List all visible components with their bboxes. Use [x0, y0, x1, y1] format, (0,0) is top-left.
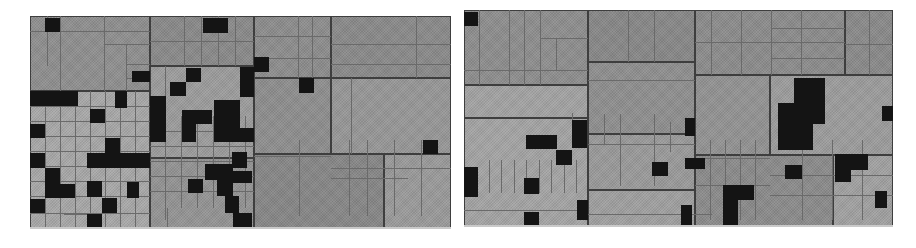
cell-divider: [421, 140, 422, 216]
cell-divider: [416, 16, 417, 78]
highlighted-cell[interactable]: [105, 138, 120, 153]
cell-divider: [464, 210, 588, 211]
highlighted-cell[interactable]: [785, 165, 802, 179]
highlighted-cell[interactable]: [835, 154, 868, 170]
highlighted-cell[interactable]: [882, 106, 893, 121]
highlighted-cell[interactable]: [524, 212, 539, 227]
cell-divider: [367, 140, 368, 216]
highlighted-cell[interactable]: [299, 78, 314, 93]
cell-divider: [628, 10, 629, 62]
highlighted-cell[interactable]: [30, 199, 45, 213]
cell-divider: [862, 140, 863, 220]
cell-divider: [588, 214, 712, 215]
highlighted-cell[interactable]: [127, 182, 139, 198]
cell-divider: [620, 114, 621, 186]
highlighted-cell[interactable]: [182, 124, 196, 142]
highlighted-cell[interactable]: [102, 198, 117, 213]
highlighted-cell[interactable]: [240, 67, 254, 97]
treemap-region[interactable]: [254, 78, 331, 154]
highlighted-cell[interactable]: [214, 128, 254, 142]
highlighted-cell[interactable]: [524, 178, 539, 194]
highlighted-cell[interactable]: [423, 140, 438, 154]
highlighted-cell[interactable]: [132, 71, 150, 82]
highlighted-cell[interactable]: [203, 18, 228, 33]
cell-divider: [695, 42, 845, 43]
cell-divider: [695, 158, 770, 159]
highlighted-cell[interactable]: [30, 124, 45, 138]
highlighted-cell[interactable]: [87, 181, 102, 197]
cell-divider: [551, 160, 552, 193]
treemap-region[interactable]: [331, 16, 451, 78]
cell-divider: [60, 91, 61, 229]
highlighted-cell[interactable]: [652, 162, 668, 176]
highlighted-cell[interactable]: [30, 91, 78, 106]
highlighted-cell[interactable]: [170, 82, 186, 96]
highlighted-cell[interactable]: [30, 153, 45, 168]
highlighted-cell[interactable]: [233, 171, 252, 183]
cell-divider: [539, 160, 540, 193]
cell-divider: [75, 91, 76, 229]
highlighted-cell[interactable]: [556, 150, 572, 165]
highlighted-cell[interactable]: [90, 109, 105, 123]
treemap-region[interactable]: [464, 10, 588, 85]
cell-divider: [654, 10, 655, 62]
highlighted-cell[interactable]: [875, 191, 887, 208]
cell-divider: [494, 226, 495, 227]
highlighted-cell[interactable]: [225, 196, 239, 213]
highlighted-cell[interactable]: [685, 158, 705, 169]
highlighted-cell[interactable]: [45, 18, 60, 32]
highlighted-cell[interactable]: [232, 152, 247, 168]
highlighted-cell[interactable]: [464, 12, 478, 26]
highlighted-cell[interactable]: [685, 118, 695, 136]
highlighted-cell[interactable]: [188, 179, 203, 193]
cell-divider: [540, 10, 541, 85]
highlighted-cell[interactable]: [572, 120, 587, 148]
cell-divider: [351, 78, 352, 154]
cell-divider: [394, 140, 395, 216]
highlighted-cell[interactable]: [778, 103, 813, 150]
cell-divider: [150, 41, 254, 42]
cell-divider: [30, 151, 150, 152]
treemap-panel-right: [464, 10, 893, 227]
cell-divider: [588, 144, 695, 145]
cell-divider: [740, 140, 741, 220]
cell-divider: [299, 140, 300, 216]
treemap-region[interactable]: [464, 85, 588, 118]
highlighted-cell[interactable]: [681, 205, 692, 227]
highlighted-cell[interactable]: [87, 214, 102, 229]
treemap-region[interactable]: [254, 154, 384, 229]
highlighted-cell[interactable]: [526, 135, 557, 149]
highlighted-cell[interactable]: [45, 184, 75, 198]
highlighted-cell[interactable]: [464, 167, 478, 197]
cell-divider: [845, 44, 893, 45]
highlighted-cell[interactable]: [87, 153, 150, 168]
highlighted-cell[interactable]: [233, 213, 252, 229]
cell-divider: [104, 16, 105, 91]
cell-divider: [540, 38, 588, 39]
highlighted-cell[interactable]: [577, 200, 588, 220]
cell-divider: [540, 226, 541, 227]
highlighted-cell[interactable]: [150, 96, 166, 142]
highlighted-cell[interactable]: [186, 68, 201, 82]
highlighted-cell[interactable]: [214, 100, 240, 128]
highlighted-cell[interactable]: [182, 110, 212, 124]
treemap-region[interactable]: [695, 75, 770, 155]
cell-divider: [104, 44, 150, 45]
cell-divider: [524, 10, 525, 85]
highlighted-cell[interactable]: [254, 57, 269, 72]
treemap-region[interactable]: [695, 155, 833, 227]
cell-divider: [349, 140, 350, 216]
cell-divider: [165, 158, 166, 220]
highlighted-cell[interactable]: [45, 168, 60, 184]
cell-divider: [604, 114, 605, 144]
treemap-region[interactable]: [588, 190, 695, 227]
highlighted-cell[interactable]: [835, 170, 851, 182]
highlighted-cell[interactable]: [115, 91, 127, 108]
cell-divider: [254, 36, 331, 37]
highlighted-cell[interactable]: [723, 185, 754, 200]
highlighted-cell[interactable]: [723, 200, 738, 227]
treemap-region[interactable]: [588, 10, 695, 62]
cell-divider: [510, 226, 511, 227]
cell-divider: [167, 208, 168, 229]
highlighted-cell[interactable]: [217, 164, 233, 196]
